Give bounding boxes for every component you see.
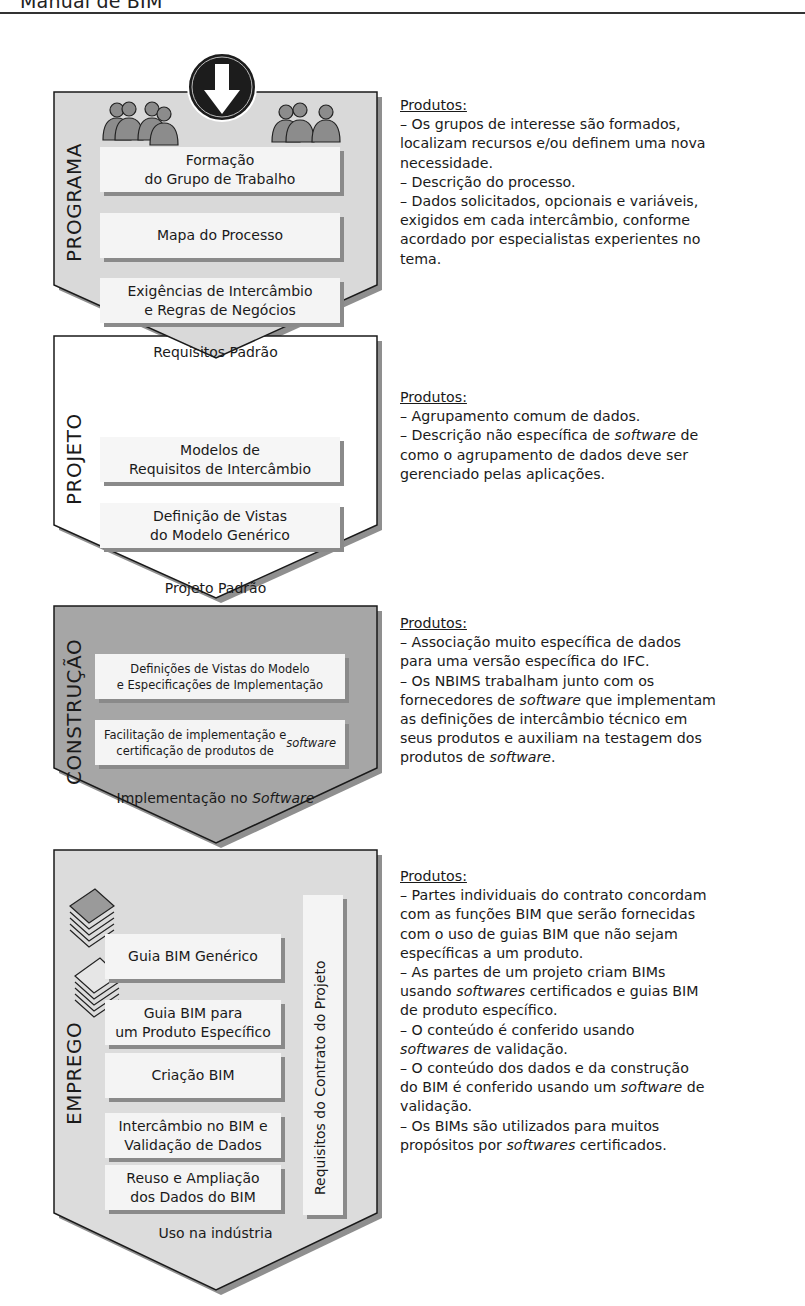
description-title: Produtos:	[400, 867, 795, 886]
people-group-icon-right	[272, 103, 340, 142]
description-construcao: Produtos: – Associação muito específica …	[400, 614, 795, 768]
box-guia-bim-generico: Guia BIM Genérico	[105, 934, 281, 979]
description-line: usando softwares certificados e guias BI…	[400, 982, 795, 1001]
description-line: – Agrupamento comum de dados.	[400, 407, 795, 426]
footer-projeto-padrao: Projeto Padrão	[54, 580, 377, 596]
stage-label-construcao: CONSTRUÇÃO	[62, 639, 86, 785]
description-line: propósitos por softwares certificados.	[400, 1136, 795, 1155]
description-line: tema.	[400, 250, 795, 269]
box-criacao-bim: Criação BIM	[105, 1053, 281, 1098]
description-line: – O conteúdo dos dados e da construção	[400, 1059, 795, 1078]
description-projeto: Produtos: – Agrupamento comum de dados. …	[400, 388, 795, 484]
box-exigencias-intercambio: Exigências de Intercâmbio e Regras de Ne…	[100, 278, 340, 323]
description-line: com as funções BIM que serão fornecidas	[400, 905, 795, 924]
description-line: necessidade.	[400, 154, 795, 173]
description-line: – Os NBIMS trabalham junto com os	[400, 672, 795, 691]
description-line: – Descrição do processo.	[400, 173, 795, 192]
description-line: – O conteúdo é conferido usando	[400, 1021, 795, 1040]
description-line: para uma versão específica do IFC.	[400, 652, 795, 671]
description-line: – Dados solicitados, opcionais e variáve…	[400, 192, 795, 211]
box-formacao-grupo: Formação do Grupo de Trabalho	[100, 147, 340, 192]
stage-label-projeto: PROJETO	[62, 413, 86, 505]
down-arrow-icon	[188, 53, 256, 121]
description-line: de produto específico.	[400, 1001, 795, 1020]
description-emprego: Produtos: – Partes individuais do contra…	[400, 867, 795, 1155]
description-line: – Associação muito específica de dados	[400, 633, 795, 652]
box-intercambio-validacao: Intercâmbio no BIM e Validação de Dados	[105, 1113, 281, 1158]
description-line: softwares de validação.	[400, 1040, 795, 1059]
description-title: Produtos:	[400, 388, 795, 407]
box-reuso-ampliacao: Reuso e Ampliação dos Dados do BIM	[105, 1165, 281, 1210]
description-line: localizam recursos e/ou definem uma nova	[400, 134, 795, 153]
description-line: – Descrição não específica de software d…	[400, 426, 795, 445]
box-modelos-requisitos: Modelos de Requisitos de Intercâmbio	[100, 437, 340, 482]
footer-requisitos-padrao: Requisitos Padrão	[54, 344, 377, 360]
description-line: exigidos em cada intercâmbio, conforme	[400, 211, 795, 230]
description-title: Produtos:	[400, 614, 795, 633]
description-line: – Os grupos de interesse são formados,	[400, 115, 795, 134]
footer-implementacao-software: Implementação no Software	[54, 790, 377, 806]
box-mapa-processo: Mapa do Processo	[100, 213, 340, 258]
box-definicao-vistas: Definição de Vistas do Modelo Genérico	[100, 503, 340, 548]
description-line: gerenciado pelas aplicações.	[400, 465, 795, 484]
box-guia-bim-produto-especifico: Guia BIM para um Produto Específico	[105, 1000, 281, 1045]
description-line: como o agrupamento de dados deve ser	[400, 446, 795, 465]
description-line: com o uso de guias BIM que não sejam	[400, 925, 795, 944]
description-programa: Produtos: – Os grupos de interesse são f…	[400, 96, 795, 269]
description-line: as definições de intercâmbio técnico em	[400, 710, 795, 729]
description-line: do BIM é conferido usando um software de	[400, 1078, 795, 1097]
description-line: validação.	[400, 1097, 795, 1116]
footer-uso-industria: Uso na indústria	[54, 1225, 377, 1241]
description-line: – Partes individuais do contrato concord…	[400, 886, 795, 905]
description-line: seus produtos e auxiliam na testagem dos	[400, 729, 795, 748]
stage-label-programa: PROGRAMA	[62, 143, 86, 262]
box-facilitacao-implementacao: Facilitação de implementação e certifica…	[95, 720, 345, 765]
box-definicoes-vistas-modelo: Definições de Vistas do Modelo e Especif…	[95, 654, 345, 699]
description-title: Produtos:	[400, 96, 795, 115]
side-box-requisitos-contrato-label: Requisitos do Contrato do Projeto	[312, 961, 328, 1195]
description-line: acordado por especialistas experientes n…	[400, 230, 795, 249]
description-line: – Os BIMs são utilizados para muitos	[400, 1117, 795, 1136]
description-line: – As partes de um projeto criam BIMs	[400, 963, 795, 982]
description-line: fornecedores de software que implementam	[400, 691, 795, 710]
stage-label-emprego: EMPREGO	[62, 1022, 86, 1125]
description-line: específicas a um produto.	[400, 944, 795, 963]
description-line: produtos de software.	[400, 748, 795, 767]
